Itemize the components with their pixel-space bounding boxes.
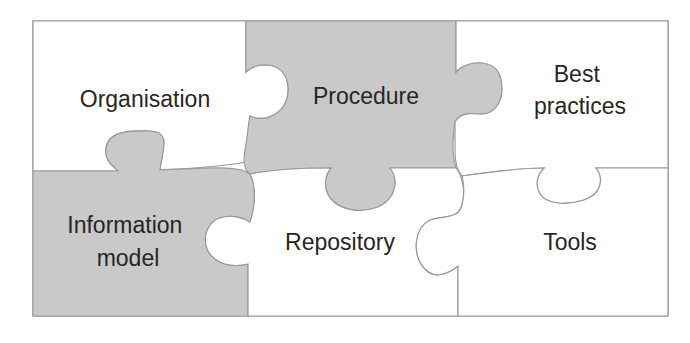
label-tools: Tools: [543, 229, 597, 255]
puzzle-diagram: Organisation Procedure Best practices In…: [0, 0, 690, 343]
label-procedure: Procedure: [313, 83, 419, 109]
label-organisation: Organisation: [80, 86, 210, 112]
label-repository: Repository: [285, 229, 395, 255]
